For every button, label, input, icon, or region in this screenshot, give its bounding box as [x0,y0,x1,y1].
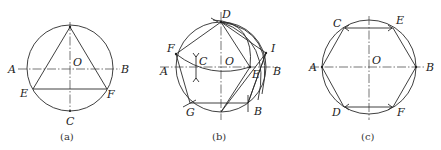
figure-c: A B O C E D F (c) [308,14,434,142]
vertex-dot [69,26,71,28]
caption-a: (a) [60,131,74,142]
label-a-C: C [66,115,75,128]
geometry-figure: A B O E F C (a) [0,0,441,150]
label-b-O: O [225,55,234,68]
point-b-dot [415,66,417,68]
label-c-C: C [333,17,342,30]
label-c-A: A [308,61,317,74]
label-b-B2: B [253,105,262,118]
point-i-dot [265,52,267,54]
label-c-E: E [395,14,404,27]
label-c-O: O [372,54,381,67]
line-bottom-e [221,67,250,112]
label-c-D: D [331,106,341,119]
label-b-I: I [270,42,276,55]
label-a-O: O [73,56,82,69]
arc-mark-bottom [193,78,199,82]
label-b-A: A [159,65,168,78]
label-a-B: B [120,63,129,76]
label-b-G: G [186,106,195,119]
caption-b: (b) [212,131,226,142]
label-b-C: C [199,55,208,68]
label-c-B: B [425,61,434,74]
point-f-dot [175,53,177,55]
figure-b: A B C O D E F I G B (b) [159,8,281,142]
label-b-E: E [251,68,260,81]
point-e-dot [249,66,251,68]
label-a-F: F [106,88,115,101]
label-b-B: B [272,65,281,78]
point-a-dot [321,66,323,68]
point-d-dot [220,21,222,23]
label-a-A: A [7,63,16,76]
caption-c: (c) [361,131,375,142]
point-c-dot [69,110,71,112]
arc-f-to-e [176,54,250,71]
label-b-D: D [221,8,231,21]
label-c-F: F [396,106,405,119]
figure-a: A B O E F C (a) [7,22,129,142]
label-a-E: E [19,87,28,100]
label-b-F: F [166,42,175,55]
